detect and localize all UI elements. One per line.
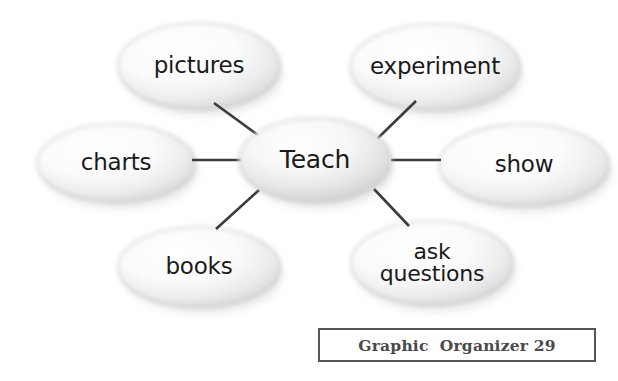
node-books[interactable]: books xyxy=(118,227,280,307)
node-pictures-label: pictures xyxy=(154,54,245,77)
node-charts-label: charts xyxy=(81,151,152,174)
node-charts[interactable]: charts xyxy=(37,124,195,202)
node-books-label: books xyxy=(165,255,232,278)
node-teach[interactable]: Teach xyxy=(239,118,391,202)
node-pictures[interactable]: pictures xyxy=(118,23,280,109)
node-ask-questions-line-2: questions xyxy=(380,263,485,285)
graphic-organizer-canvas: Teach pictures experiment charts show bo… xyxy=(0,0,618,381)
node-show[interactable]: show xyxy=(439,124,609,206)
node-ask-questions-line-1: ask xyxy=(413,241,450,263)
node-show-label: show xyxy=(495,153,554,176)
node-teach-label: Teach xyxy=(280,147,350,173)
node-experiment[interactable]: experiment xyxy=(350,24,520,110)
node-experiment-label: experiment xyxy=(370,55,500,78)
node-ask-questions[interactable]: ask questions xyxy=(351,221,513,305)
caption-box: Graphic Organizer 29 xyxy=(318,328,596,362)
caption-label: Graphic Organizer 29 xyxy=(358,336,555,355)
